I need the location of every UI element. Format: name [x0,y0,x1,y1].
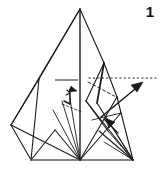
figure-root: 1 [0,0,160,175]
step-number-label: 1 [146,4,154,20]
origami-diagram [0,0,160,175]
